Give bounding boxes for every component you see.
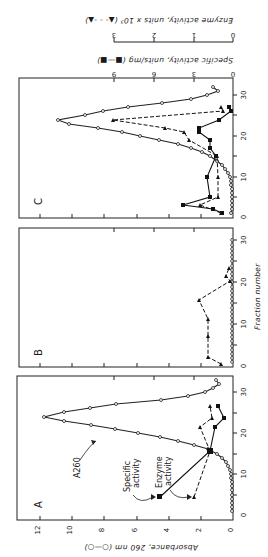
panel-c: 0 10 20 30 C xyxy=(19,78,248,219)
specific-activity-axis: 0 3 6 9 Specific activity, units/mg (■—■… xyxy=(97,56,235,78)
svg-text:0: 0 xyxy=(231,70,235,78)
specific-axis-label: Specific activity, units/mg (■—■) xyxy=(97,56,233,65)
svg-text:30: 30 xyxy=(240,236,248,245)
enzyme-activity-line-b xyxy=(199,268,230,364)
svg-text:10: 10 xyxy=(240,173,248,182)
enzyme-activity-line-c xyxy=(113,107,223,213)
svg-text:9: 9 xyxy=(112,70,116,78)
svg-text:Enzyme: Enzyme xyxy=(155,456,164,488)
svg-text:10: 10 xyxy=(240,320,248,329)
svg-text:6: 6 xyxy=(131,527,139,532)
enzyme-axis-label: Enzyme activity, units x 10³ (▲- - -▲) xyxy=(85,16,233,25)
svg-text:10: 10 xyxy=(240,470,248,479)
specific-activity-line-c xyxy=(183,107,231,213)
svg-text:4: 4 xyxy=(163,527,171,532)
svg-text:0: 0 xyxy=(240,513,248,517)
svg-text:20: 20 xyxy=(240,132,248,141)
x-axis-label: Fraction number xyxy=(253,263,262,330)
svg-text:30: 30 xyxy=(240,91,248,100)
svg-text:Specific: Specific xyxy=(123,461,132,492)
svg-text:10: 10 xyxy=(66,526,74,535)
enzyme-activity-axis: 0 1 2 3 Enzyme activity, units x 10³ (▲-… xyxy=(85,16,236,42)
absorbance-axis-label: Absorbance, 260 nm (○—○) xyxy=(84,543,199,552)
panel-label-b: B xyxy=(33,349,44,356)
panel-label-c: C xyxy=(33,198,44,205)
enzyme-activity-line-a xyxy=(194,406,212,497)
svg-text:0: 0 xyxy=(231,31,235,39)
svg-text:8: 8 xyxy=(98,528,106,532)
svg-text:30: 30 xyxy=(240,388,248,397)
rotated-chromatography-figure: 0 1 2 3 Enzyme activity, units x 10³ (▲-… xyxy=(0,0,268,557)
svg-text:activity: activity xyxy=(132,458,141,488)
svg-text:A260: A260 xyxy=(73,457,82,478)
svg-text:3: 3 xyxy=(112,31,116,39)
panel-a: 0 10 20 30 0 2 4 6 8 10 12 Absorbance, 2… xyxy=(17,376,248,552)
svg-text:0: 0 xyxy=(227,528,235,532)
absorbance-axis: 0 2 4 6 8 10 12 Absorbance, 260 nm (○—○) xyxy=(34,526,235,552)
panel-b: 0 10 20 30 B Fraction number xyxy=(19,228,262,368)
annotations-a: A260 Specific activity Enzyme activity xyxy=(73,440,192,501)
a260-line-c xyxy=(58,87,232,213)
svg-text:0: 0 xyxy=(240,364,248,368)
svg-text:2: 2 xyxy=(152,31,156,39)
svg-text:6: 6 xyxy=(151,70,156,78)
svg-text:20: 20 xyxy=(240,429,248,438)
panel-label-a: A xyxy=(33,501,44,508)
svg-text:2: 2 xyxy=(195,528,203,532)
svg-text:activity: activity xyxy=(164,456,173,486)
svg-text:3: 3 xyxy=(192,70,196,78)
svg-text:20: 20 xyxy=(240,278,248,287)
svg-text:1: 1 xyxy=(192,31,196,39)
a260-line-a xyxy=(44,380,232,511)
svg-text:0: 0 xyxy=(240,215,248,219)
svg-text:12: 12 xyxy=(34,526,42,535)
